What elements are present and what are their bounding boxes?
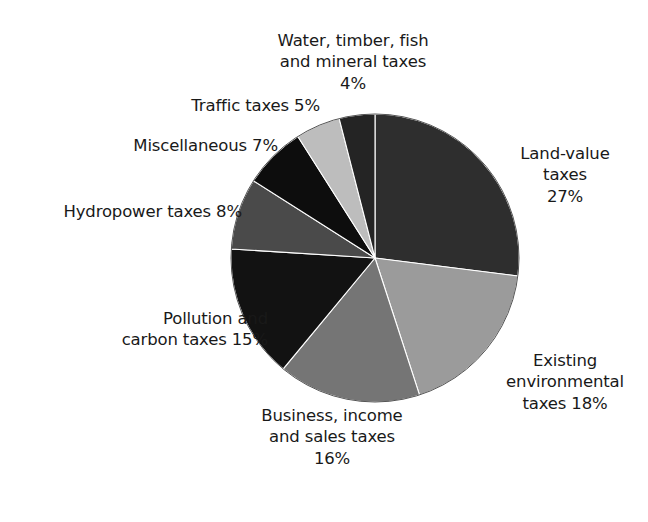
pie-slice	[375, 114, 519, 276]
pie-chart-svg	[230, 113, 520, 403]
slice-label-traffic-taxes: Traffic taxes 5%	[120, 95, 320, 116]
slice-label-water-timber-fish-and-mineral-taxes: Water, timber, fish and mineral taxes 4%	[238, 30, 468, 94]
slice-label-hydropower-taxes: Hydropower taxes 8%	[22, 201, 242, 222]
slice-label-existing-environmental-taxes: Existing environmental taxes 18%	[490, 350, 640, 414]
slice-label-land-value-taxes: Land-value taxes 27%	[500, 143, 630, 207]
pie-chart-plot-area	[230, 113, 520, 403]
pie-slice-group	[231, 114, 519, 402]
slice-label-pollution-and-carbon-taxes: Pollution and carbon taxes 15%	[68, 308, 268, 351]
slice-label-business-income-and-sales-taxes: Business, income and sales taxes 16%	[232, 405, 432, 469]
pie-chart-figure: Water, timber, fish and mineral taxes 4%…	[0, 0, 648, 522]
slice-label-miscellaneous: Miscellaneous 7%	[78, 135, 278, 156]
